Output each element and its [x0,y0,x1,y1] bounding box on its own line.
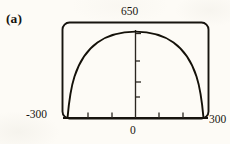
x-axis-min-label: -300 [26,108,47,120]
y-axis-ticks [136,34,142,98]
x-axis-origin-label: 0 [130,124,136,136]
figure-panel: (a) 650 -300 300 0 [0,0,230,144]
plot-area [0,0,230,144]
y-axis-max-label: 650 [121,5,138,17]
x-axis-max-label: 300 [209,113,226,125]
